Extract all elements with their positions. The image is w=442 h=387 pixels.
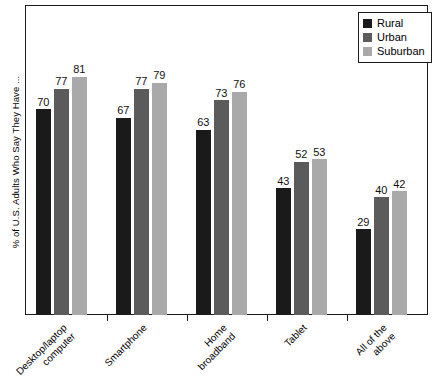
bar-suburban: 76: [232, 7, 248, 315]
bar-urban: 77: [134, 7, 150, 315]
x-axis-category-label: Home broadband: [151, 322, 238, 387]
bar-value-label: 79: [139, 69, 179, 81]
bar-urban: 73: [214, 7, 230, 315]
bar-rect: [134, 89, 150, 315]
bar-rect: [72, 77, 88, 315]
y-axis-title: % of U.S. Adults Who Say They Have ...: [9, 2, 23, 322]
bar-chart: % of U.S. Adults Who Say They Have ... 7…: [0, 0, 442, 387]
x-axis-category-label: Desktop/laptop computer: [0, 322, 78, 387]
bar-rect: [36, 109, 52, 314]
bar-rect: [276, 188, 292, 314]
bar-suburban: 81: [72, 7, 88, 315]
bar-group: 677779: [107, 7, 187, 315]
bar-rect: [214, 100, 230, 314]
x-axis-tick: [347, 315, 348, 321]
bar-rect: [294, 162, 310, 315]
chart-legend: Rural Urban Suburban: [358, 12, 432, 63]
bar-rect: [392, 191, 408, 314]
bar-rect: [312, 159, 328, 314]
bar-suburban: 53: [312, 7, 328, 315]
bar-group: 707781: [27, 7, 107, 315]
bar-group: 637376: [187, 7, 267, 315]
bar-rect: [54, 89, 70, 315]
bar-rural: 67: [116, 7, 132, 315]
x-axis-category-label: Smartphone: [71, 322, 150, 387]
legend-label-urban: Urban: [377, 30, 407, 44]
bar-urban: 52: [294, 7, 310, 315]
bar-rural: 63: [196, 7, 212, 315]
bar-value-label: 42: [379, 178, 419, 190]
bar-rect: [374, 197, 390, 314]
bar-group: 435253: [267, 7, 347, 315]
bar-rect: [196, 130, 212, 315]
bar-rect: [232, 92, 248, 315]
legend-item-urban: Urban: [363, 30, 425, 44]
bar-urban: 77: [54, 7, 70, 315]
legend-item-rural: Rural: [363, 16, 425, 30]
bar-value-label: 81: [59, 63, 99, 75]
bar-value-label: 76: [219, 78, 259, 90]
legend-label-suburban: Suburban: [377, 44, 425, 58]
bar-suburban: 79: [152, 7, 168, 315]
bar-rural: 70: [36, 7, 52, 315]
legend-swatch-urban: [363, 33, 372, 42]
x-axis-tick: [107, 315, 108, 321]
bar-value-label: 53: [299, 146, 339, 158]
legend-item-suburban: Suburban: [363, 44, 425, 58]
x-axis-category-label: All of the above: [311, 322, 398, 387]
x-axis-category-label: Tablet: [231, 322, 310, 387]
legend-swatch-rural: [363, 19, 372, 28]
bar-rect: [116, 118, 132, 315]
bar-rural: 43: [276, 7, 292, 315]
bar-rect: [152, 83, 168, 315]
x-axis-tick: [187, 315, 188, 321]
legend-swatch-suburban: [363, 47, 372, 56]
bar-rect: [356, 229, 372, 314]
legend-label-rural: Rural: [377, 16, 403, 30]
x-axis-tick: [267, 315, 268, 321]
